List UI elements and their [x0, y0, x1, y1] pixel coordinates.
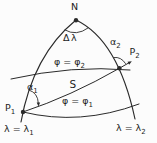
- distance-s-label: S: [70, 79, 77, 90]
- point-p1-dot: [21, 110, 25, 114]
- lambda1-equation: λ = λ: [4, 123, 29, 134]
- p1-subscript: 1: [11, 108, 15, 116]
- parallel-phi1-label: φ = φ1: [62, 96, 93, 106]
- parallel-phi2-label: φ = φ2: [54, 57, 85, 67]
- alpha1-label: α1: [27, 82, 38, 92]
- phi2-equation: φ = φ: [54, 56, 81, 67]
- north-pole-dot: [74, 18, 78, 22]
- meridian-lambda2-label: λ = λ2: [116, 123, 146, 133]
- phi1-equation: φ = φ: [62, 95, 89, 106]
- delta-lambda-label: Δλ: [63, 33, 78, 43]
- meridian-lambda1-label: λ = λ1: [4, 124, 34, 134]
- phi2-subscript: 2: [81, 62, 85, 70]
- great-circle-sailing-diagram: N Δλ α2 P2 φ = φ2 S α1 φ = φ1 P1 λ = λ1 …: [0, 0, 157, 143]
- lambda2-subscript: 2: [141, 128, 145, 136]
- phi1-subscript: 1: [89, 101, 93, 109]
- point-p2-label: P2: [130, 47, 140, 57]
- lambda1-subscript: 1: [29, 129, 33, 137]
- north-pole-label: N: [71, 2, 78, 12]
- alpha2-subscript: 2: [116, 42, 120, 50]
- alpha1-subscript: 1: [33, 87, 37, 95]
- alpha2-label: α2: [110, 37, 121, 47]
- p2-subscript: 2: [135, 52, 139, 60]
- lambda2-equation: λ = λ: [116, 122, 141, 133]
- point-p1-label: P1: [5, 103, 15, 113]
- point-p2-dot: [117, 66, 121, 70]
